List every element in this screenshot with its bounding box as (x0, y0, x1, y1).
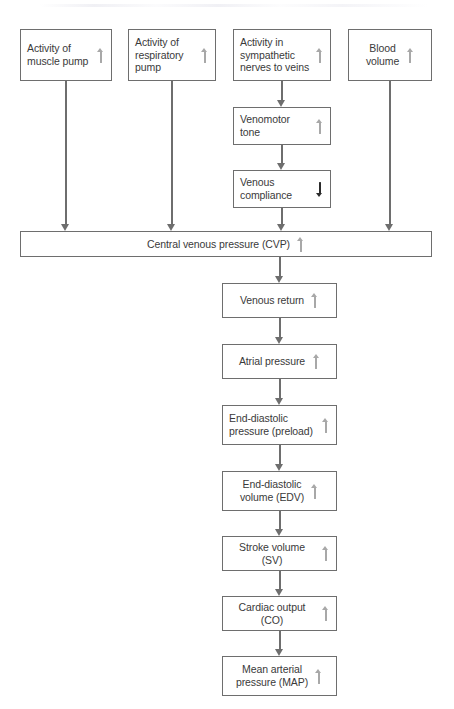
node-label: End-diastolic volume (EDV) (240, 478, 304, 503)
increase-arrow-icon (316, 119, 324, 134)
connector-blood-volume-to-cvp (389, 81, 391, 226)
connector-venomotor-to-compliance (281, 145, 283, 165)
node-label: Central venous pressure (CVP) (147, 238, 290, 251)
connector-cvp-to-venous-return (279, 257, 281, 278)
node-venous-compliance[interactable]: Venous compliance (233, 170, 331, 208)
connector-stroke-volume-to-cardiac-output (279, 571, 281, 591)
connector-arrowhead (275, 529, 283, 536)
node-label: Stroke volume (SV) (229, 541, 315, 566)
node-label: Cardiac output (CO) (229, 601, 315, 626)
scan-artifact (40, 4, 428, 7)
node-blood-volume[interactable]: Blood volume (348, 29, 432, 81)
node-central-venous-pressure[interactable]: Central venous pressure (CVP) (20, 231, 432, 257)
connector-arrowhead (275, 464, 283, 471)
connector-edv-to-stroke-volume (279, 511, 281, 531)
increase-arrow-icon (201, 48, 209, 63)
node-label: Blood volume (366, 42, 399, 67)
connector-arrowhead (277, 163, 285, 170)
node-activity-in-sympathetic-nerves-to-veins[interactable]: Activity in sympathetic nerves to veins (233, 29, 331, 81)
node-label: Venomotor tone (240, 113, 290, 138)
increase-arrow-icon (316, 48, 324, 63)
node-end-diastolic-volume-edv[interactable]: End-diastolic volume (EDV) (222, 471, 337, 511)
increase-arrow-icon (312, 354, 320, 369)
node-activity-of-respiratory-pump[interactable]: Activity of respiratory pump (128, 29, 216, 81)
connector-respiratory-pump-to-cvp (171, 81, 173, 226)
node-label: Mean arterial pressure (MAP) (236, 663, 308, 688)
connector-arrowhead (275, 649, 283, 656)
node-label: Atrial pressure (239, 355, 305, 368)
connector-arrowhead (275, 589, 283, 596)
connector-muscle-pump-to-cvp (65, 81, 67, 226)
node-cardiac-output-co[interactable]: Cardiac output (CO) (222, 596, 337, 631)
increase-arrow-icon (322, 546, 330, 561)
node-atrial-pressure[interactable]: Atrial pressure (222, 344, 337, 379)
node-venomotor-tone[interactable]: Venomotor tone (233, 107, 331, 145)
node-label: Venous compliance (240, 176, 292, 201)
node-mean-arterial-pressure-map[interactable]: Mean arterial pressure (MAP) (222, 656, 337, 696)
increase-arrow-icon (297, 237, 305, 252)
connector-sympathetic-to-venomotor (281, 81, 283, 102)
connector-arrowhead (277, 224, 285, 231)
connector-arrowhead (61, 224, 69, 231)
connector-atrial-to-edp (279, 379, 281, 400)
increase-arrow-icon (311, 293, 319, 308)
node-label: Activity of muscle pump (27, 42, 88, 67)
increase-arrow-icon (97, 48, 105, 63)
connector-arrowhead (275, 398, 283, 405)
node-label: Venous return (240, 294, 304, 307)
connector-edp-to-edv (279, 445, 281, 466)
connector-arrowhead (275, 276, 283, 283)
increase-arrow-icon (322, 606, 330, 621)
increase-arrow-icon (315, 669, 323, 684)
connector-arrowhead (167, 224, 175, 231)
connector-cardiac-output-to-map (279, 631, 281, 651)
decrease-arrow-icon (316, 182, 324, 197)
increase-arrow-icon (322, 418, 330, 433)
node-label: Activity of respiratory pump (135, 36, 184, 74)
connector-arrowhead (277, 100, 285, 107)
flowchart-canvas: Activity of muscle pump Activity of resp… (0, 0, 454, 709)
node-label: Activity in sympathetic nerves to veins (240, 36, 309, 74)
node-label: End-diastolic pressure (preload) (229, 412, 313, 437)
increase-arrow-icon (311, 484, 319, 499)
connector-arrowhead (275, 337, 283, 344)
node-activity-of-muscle-pump[interactable]: Activity of muscle pump (20, 29, 112, 81)
increase-arrow-icon (406, 48, 414, 63)
connector-arrowhead (385, 224, 393, 231)
connector-venous-return-to-atrial (279, 318, 281, 339)
node-venous-return[interactable]: Venous return (222, 283, 337, 318)
node-end-diastolic-pressure-preload[interactable]: End-diastolic pressure (preload) (222, 405, 337, 445)
node-stroke-volume-sv[interactable]: Stroke volume (SV) (222, 536, 337, 571)
